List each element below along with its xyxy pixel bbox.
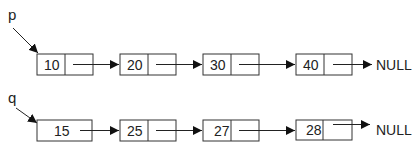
node-value: 30 xyxy=(210,57,226,73)
null-terminal-label: NULL xyxy=(376,122,412,138)
pointer-label-q: q xyxy=(8,89,16,106)
node-box xyxy=(296,120,352,140)
pointer-label-p: p xyxy=(8,6,16,23)
node-value: 27 xyxy=(214,123,230,139)
node-value: 15 xyxy=(54,123,70,139)
node-value: 40 xyxy=(303,57,319,73)
pointer-arrow-p xyxy=(13,28,38,53)
linked-list-diagram: p 10 20 30 40 NULL q xyxy=(0,0,415,152)
null-terminal-label: NULL xyxy=(376,57,412,73)
list-node: 28 xyxy=(296,120,352,140)
node-value: 28 xyxy=(306,122,322,138)
node-value: 20 xyxy=(127,57,143,73)
pointer-arrow-q xyxy=(16,108,37,123)
node-value: 10 xyxy=(44,57,60,73)
linked-list-q: q 15 25 27 28 NULL xyxy=(8,89,412,141)
linked-list-p: p 10 20 30 40 NULL xyxy=(8,6,412,75)
node-value: 25 xyxy=(127,123,143,139)
